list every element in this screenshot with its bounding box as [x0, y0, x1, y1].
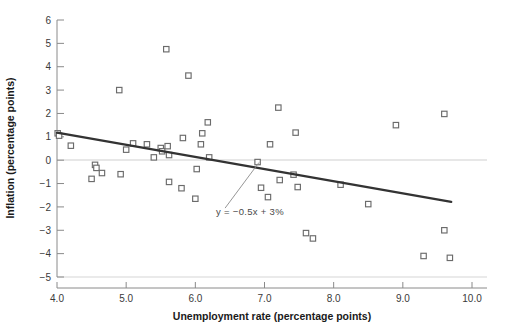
- x-axis-title: Unemployment rate (percentage points): [173, 310, 371, 322]
- data-point-marker: [180, 135, 185, 140]
- data-point-marker: [276, 105, 281, 110]
- data-point-marker: [442, 228, 447, 233]
- data-point-marker: [117, 87, 122, 92]
- x-tick-label: 6.0: [188, 293, 202, 304]
- y-tick-label: 3: [45, 85, 51, 96]
- data-point-marker: [193, 196, 198, 201]
- data-point-marker: [205, 120, 210, 125]
- x-tick-label: 5.0: [119, 293, 133, 304]
- chart-canvas: 6543210−1−2−3−4−5 4.05.06.07.08.09.010.0…: [0, 0, 505, 327]
- data-point-marker: [258, 185, 263, 190]
- data-point-marker: [89, 176, 94, 181]
- y-tick-label: 2: [45, 108, 51, 119]
- data-point-marker: [179, 186, 184, 191]
- y-tick-label: −2: [40, 202, 52, 213]
- y-tick-label: −4: [40, 248, 52, 259]
- y-tick-label: 5: [45, 38, 51, 49]
- data-point-marker: [194, 166, 199, 171]
- data-point-marker: [118, 172, 123, 177]
- data-point-marker: [198, 142, 203, 147]
- x-tick-label: 7.0: [258, 293, 272, 304]
- data-point-marker: [265, 194, 270, 199]
- y-tick-label: −5: [40, 272, 52, 283]
- trendline-equation-label: y = −0.5x + 3%: [216, 206, 284, 217]
- data-point-marker: [99, 170, 104, 175]
- data-point-marker: [94, 165, 99, 170]
- data-point-marker: [267, 142, 272, 147]
- data-point-marker: [421, 253, 426, 258]
- data-point-marker: [68, 143, 73, 148]
- x-tick-label: 10.0: [462, 293, 482, 304]
- data-point-marker: [447, 255, 452, 260]
- chart-background: [0, 0, 505, 327]
- data-point-marker: [123, 147, 128, 152]
- y-tick-label: −3: [40, 225, 52, 236]
- data-point-marker: [277, 177, 282, 182]
- data-point-marker: [165, 143, 170, 148]
- data-point-marker: [144, 142, 149, 147]
- y-tick-label: 6: [45, 15, 51, 26]
- scatter-chart-figure: 6543210−1−2−3−4−5 4.05.06.07.08.09.010.0…: [0, 0, 505, 327]
- data-point-marker: [293, 130, 298, 135]
- data-point-marker: [151, 155, 156, 160]
- data-point-marker: [166, 179, 171, 184]
- x-tick-label: 9.0: [396, 293, 410, 304]
- data-point-marker: [295, 184, 300, 189]
- x-tick-label: 8.0: [327, 293, 341, 304]
- data-point-marker: [310, 236, 315, 241]
- y-tick-label: 1: [45, 131, 51, 142]
- data-point-marker: [303, 230, 308, 235]
- data-point-marker: [200, 131, 205, 136]
- y-tick-label: 4: [45, 61, 51, 72]
- data-point-marker: [186, 73, 191, 78]
- y-axis-title: Inflation (percentage points): [4, 77, 16, 218]
- y-tick-label: −1: [40, 178, 52, 189]
- x-tick-label: 4.0: [50, 293, 64, 304]
- data-point-marker: [366, 201, 371, 206]
- data-point-marker: [164, 47, 169, 52]
- data-point-marker: [442, 111, 447, 116]
- y-tick-label: 0: [45, 155, 51, 166]
- data-point-marker: [393, 122, 398, 127]
